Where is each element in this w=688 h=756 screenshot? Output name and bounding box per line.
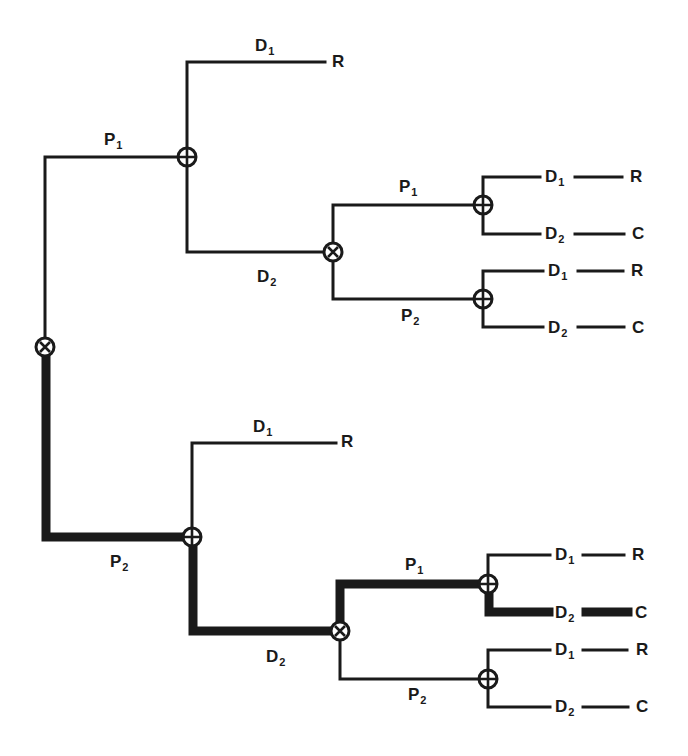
label-base: C [636, 697, 648, 716]
branch-label-b-d1: D1 [548, 262, 567, 282]
label-base: C [632, 318, 644, 337]
branch-top-d2 [187, 157, 333, 252]
label-base: R [632, 545, 644, 564]
label-base: P [110, 552, 121, 571]
label-subscript: 1 [558, 176, 564, 188]
branch-label-top-d2-p2: P2 [401, 307, 419, 327]
label-base: R [631, 261, 643, 280]
label-base: P [104, 130, 115, 149]
label-base: P [405, 555, 416, 574]
chance-node-c-icon [479, 575, 497, 593]
label-subscript: 1 [568, 554, 574, 566]
label-base: C [632, 224, 644, 243]
branch-label-b-d2: D2 [548, 319, 567, 339]
label-base: D [545, 224, 557, 243]
label-base: P [408, 685, 419, 704]
branch-label-d-c: C [636, 698, 648, 715]
label-base: R [630, 167, 642, 186]
decision-node-bot-d2-icon [331, 622, 349, 640]
branch-bot-d2-p2 [340, 631, 488, 679]
branch-label-top-r: R [332, 53, 344, 70]
label-base: R [341, 432, 353, 451]
branch-label-bot-d2: D2 [266, 648, 285, 668]
label-subscript: 1 [568, 649, 574, 661]
decision-node-root-icon [36, 338, 54, 356]
chance-node-top-p1-icon [178, 148, 196, 166]
label-base: D [548, 318, 560, 337]
branch-top-d1 [187, 62, 325, 157]
branch-label-a-r: R [630, 168, 642, 185]
label-subscript: 1 [268, 45, 274, 57]
label-subscript: 2 [561, 327, 567, 339]
label-subscript: 1 [266, 426, 272, 438]
label-subscript: 1 [561, 270, 567, 282]
label-subscript: 1 [411, 186, 417, 198]
label-subscript: 1 [417, 564, 423, 576]
label-base: D [555, 697, 567, 716]
branch-label-bot-r: R [341, 433, 353, 450]
label-base: D [257, 267, 269, 286]
branch-label-top-d1: D1 [255, 37, 274, 57]
branch-label-a-c: C [632, 225, 644, 242]
branch-label-bot-p2: P2 [110, 553, 128, 573]
branch-label-b-c: C [632, 319, 644, 336]
branch-label-bot-d2-p2: P2 [408, 686, 426, 706]
label-base: D [555, 640, 567, 659]
branch-label-d-r: R [636, 641, 648, 658]
label-base: D [255, 36, 267, 55]
branch-label-top-d2: D2 [257, 268, 276, 288]
chance-node-d-icon [479, 670, 497, 688]
branch-bot-d2 [193, 537, 340, 631]
highlighted-path [46, 347, 628, 631]
label-base: D [545, 167, 557, 186]
branch-label-c-c: C [635, 604, 647, 621]
branch-label-bot-d2-p1: P1 [405, 556, 423, 576]
chance-node-a-icon [474, 196, 492, 214]
label-base: R [636, 640, 648, 659]
branch-label-d-d1: D1 [555, 641, 574, 661]
label-base: D [548, 261, 560, 280]
label-subscript: 2 [122, 561, 128, 573]
branch-c-d2 [489, 584, 549, 612]
label-base: P [401, 306, 412, 325]
label-subscript: 2 [413, 315, 419, 327]
branch-label-c-d1: D1 [555, 546, 574, 566]
label-subscript: 2 [270, 276, 276, 288]
chance-node-bot-p2-icon [183, 528, 201, 546]
label-base: D [253, 417, 265, 436]
branch-label-c-d2: D2 [555, 604, 574, 624]
branch-label-a-d1: D1 [545, 168, 564, 188]
branch-top-p1 [45, 157, 187, 347]
branch-bot-d2-p1 [340, 584, 488, 631]
label-base: D [555, 603, 567, 622]
branch-bot-p2 [46, 347, 192, 537]
branch-label-c-r: R [632, 546, 644, 563]
label-subscript: 1 [116, 139, 122, 151]
branch-top-d2-p2 [333, 252, 483, 299]
label-subscript: 2 [279, 656, 285, 668]
branch-label-top-p1: P1 [104, 131, 122, 151]
decision-tree-diagram [0, 0, 688, 756]
chance-node-b-icon [474, 290, 492, 308]
decision-node-top-d2-icon [324, 243, 342, 261]
branch-label-bot-d1: D1 [253, 418, 272, 438]
branch-label-b-r: R [631, 262, 643, 279]
label-subscript: 2 [558, 233, 564, 245]
label-base: R [332, 52, 344, 71]
branch-bot-d1 [192, 443, 336, 537]
branch-label-a-d2: D2 [545, 225, 564, 245]
label-base: D [555, 545, 567, 564]
label-base: C [635, 603, 647, 622]
branch-label-top-d2-p1: P1 [399, 178, 417, 198]
label-subscript: 2 [568, 706, 574, 718]
label-subscript: 2 [420, 694, 426, 706]
label-subscript: 2 [568, 612, 574, 624]
branch-top-d2-p1 [333, 205, 483, 252]
branch-label-d-d2: D2 [555, 698, 574, 718]
label-base: D [266, 647, 278, 666]
label-base: P [399, 177, 410, 196]
